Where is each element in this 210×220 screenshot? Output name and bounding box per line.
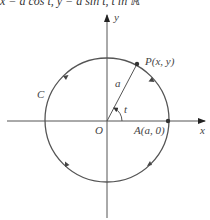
point-p xyxy=(135,62,139,66)
angle-label: t xyxy=(124,103,128,115)
curve-label: C xyxy=(37,88,45,100)
circle-diagram: y x O P(x, y) A(a, 0) C a t xyxy=(0,0,210,220)
point-a-label: A(a, 0) xyxy=(133,124,165,137)
point-a xyxy=(166,119,170,123)
radius-label: a xyxy=(115,77,121,89)
point-p-label: P(x, y) xyxy=(144,55,175,68)
angle-arc xyxy=(114,108,122,121)
radius-line xyxy=(107,64,137,121)
y-axis-label: y xyxy=(113,11,119,23)
origin-label: O xyxy=(95,124,103,136)
x-axis-label: x xyxy=(199,124,205,136)
